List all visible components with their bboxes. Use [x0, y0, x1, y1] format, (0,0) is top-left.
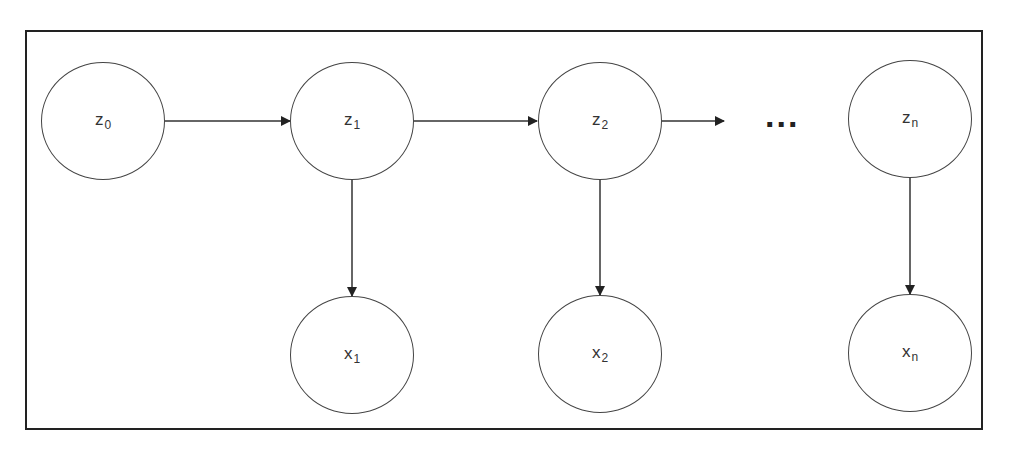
node-label-xn: xn	[902, 342, 918, 364]
node-z0: z0	[41, 62, 165, 180]
node-z2: z2	[538, 62, 662, 180]
node-zn: zn	[848, 60, 972, 178]
node-label-z1: z1	[344, 110, 360, 132]
node-label-x1: x1	[344, 344, 360, 366]
node-label-zn: zn	[902, 108, 918, 130]
node-label-z2: z2	[592, 110, 608, 132]
node-label-x2: x2	[592, 343, 608, 365]
node-x2: x2	[538, 295, 662, 413]
node-x1: x1	[290, 296, 414, 414]
node-label-z0: z0	[95, 110, 111, 132]
node-z1: z1	[290, 62, 414, 180]
ellipsis: ...	[765, 105, 799, 125]
node-xn: xn	[848, 294, 972, 412]
